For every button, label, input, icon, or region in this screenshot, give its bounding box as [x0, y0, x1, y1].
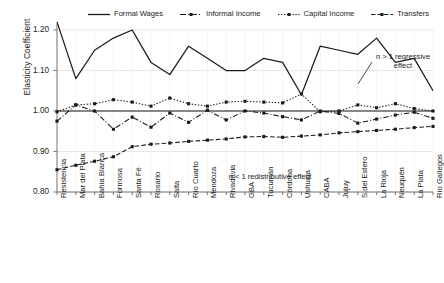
x-axis-tick-label: Formosa: [116, 168, 124, 198]
series-marker: [187, 121, 190, 124]
series-marker: [187, 102, 190, 105]
y-axis-tick-label: 0.90: [15, 148, 49, 156]
series-marker: [187, 140, 190, 143]
series-marker: [375, 129, 378, 132]
series-marker: [225, 137, 228, 140]
y-axis-tick-label: 1.10: [15, 67, 49, 75]
series-marker: [262, 135, 265, 138]
series-marker: [55, 120, 58, 123]
series-marker: [375, 106, 378, 109]
series-marker: [93, 102, 96, 105]
series-marker: [394, 128, 397, 131]
series-marker: [243, 135, 246, 138]
x-axis-tick-label: La Plata: [417, 170, 425, 198]
series-marker: [281, 115, 284, 118]
series-marker: [300, 92, 303, 95]
series-marker: [168, 96, 171, 99]
annotation-regressive-effect: n > 1 regressive effect: [370, 52, 436, 71]
series-marker: [131, 116, 134, 119]
series-marker: [131, 101, 134, 104]
series-marker: [394, 102, 397, 105]
x-axis-tick-label: La Rioja: [380, 170, 388, 198]
series-marker: [74, 103, 77, 106]
series-marker: [168, 111, 171, 114]
series-marker: [112, 98, 115, 101]
series-marker: [431, 125, 434, 128]
series-marker: [149, 105, 152, 108]
x-axis-tick-label: S.del Estero: [361, 157, 369, 198]
series-marker: [300, 135, 303, 138]
series-marker: [413, 107, 416, 110]
x-axis-tick-label: Rosario: [154, 172, 162, 198]
series-marker: [206, 139, 209, 142]
x-axis-tick-label: Bahía Blanca: [98, 153, 106, 198]
x-axis-tick-label: Mar del Plata: [79, 153, 87, 198]
x-axis-tick-label: Río Cuarto: [192, 161, 200, 198]
series-marker: [337, 131, 340, 134]
series-marker: [337, 109, 340, 112]
y-axis-tick-label: 1.00: [15, 107, 49, 115]
x-axis-tick-label: GBA: [248, 182, 256, 198]
y-axis-tick-label: 1.20: [15, 26, 49, 34]
x-axis-tick-label: Neuquén: [398, 167, 406, 198]
series-marker: [319, 133, 322, 136]
series-marker: [112, 155, 115, 158]
series-marker: [55, 110, 58, 113]
series-marker: [243, 100, 246, 103]
series-marker: [300, 118, 303, 121]
series-marker: [206, 109, 209, 112]
series-marker: [356, 130, 359, 133]
series-marker: [149, 126, 152, 129]
series-marker: [262, 111, 265, 114]
x-axis-tick-label: Santa Fé: [135, 167, 143, 198]
y-axis-tick-label: 0.80: [15, 188, 49, 196]
series-marker: [149, 143, 152, 146]
x-axis-tick-label: Jujuy: [342, 180, 350, 198]
series-marker: [243, 109, 246, 112]
series-marker: [112, 128, 115, 131]
x-axis-tick-label: Salta: [173, 181, 181, 198]
series-marker: [375, 118, 378, 121]
series-marker: [225, 101, 228, 104]
series-marker: [431, 109, 434, 112]
series-marker: [281, 136, 284, 139]
x-axis-tick-label: Río Gallegos: [436, 154, 444, 198]
series-marker: [206, 105, 209, 108]
series-marker: [413, 111, 416, 114]
series-marker: [74, 164, 77, 167]
series-marker: [93, 160, 96, 163]
series-marker: [413, 126, 416, 129]
series-marker: [225, 118, 228, 121]
series-marker: [131, 145, 134, 148]
series-marker: [168, 141, 171, 144]
series-marker: [281, 101, 284, 104]
series-marker: [394, 114, 397, 117]
series-marker: [431, 117, 434, 120]
x-axis-tick-label: Resistencia: [60, 159, 68, 198]
series-marker: [356, 122, 359, 125]
series-marker: [262, 101, 265, 104]
series-marker: [319, 110, 322, 113]
annotation-redistributive-effect: n < 1 redistributive effect: [205, 172, 335, 181]
series-marker: [356, 103, 359, 106]
series-marker: [93, 109, 96, 112]
